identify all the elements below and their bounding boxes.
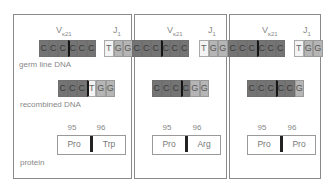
amino-acid: Pro bbox=[280, 136, 315, 152]
nucleotide: C bbox=[77, 40, 87, 57]
nucleotide: G bbox=[313, 40, 323, 57]
nucleotide: G bbox=[190, 80, 200, 97]
amino-acid: Trp bbox=[90, 136, 125, 152]
v-gene-label-2: Vκ21 bbox=[167, 25, 183, 37]
germline-j-segment-3: T G G bbox=[294, 40, 323, 57]
v-gene-label-1: Vκ21 bbox=[56, 25, 72, 37]
amino-acid: Pro bbox=[153, 136, 185, 152]
nucleotide: G bbox=[114, 40, 124, 57]
germline-j-segment-2: T G G bbox=[199, 40, 228, 57]
nucleotide: C bbox=[266, 40, 276, 57]
nucleotide: G bbox=[96, 80, 106, 97]
nucleotide: C bbox=[171, 80, 181, 97]
nucleotide: G bbox=[304, 40, 314, 57]
nucleotide: C bbox=[247, 40, 257, 57]
nucleotide: C bbox=[276, 80, 286, 97]
nucleotide: C bbox=[228, 40, 238, 57]
nucleotide: C bbox=[247, 80, 257, 97]
position-96: 96 bbox=[182, 123, 212, 132]
position-95: 95 bbox=[152, 123, 182, 132]
nucleotide: C bbox=[142, 40, 152, 57]
nucleotide: C bbox=[87, 40, 97, 57]
nucleotide: C bbox=[181, 80, 191, 97]
nucleotide: C bbox=[161, 40, 171, 57]
nucleotide: G bbox=[209, 40, 219, 57]
protein-box-3: Pro Pro bbox=[247, 135, 316, 155]
nucleotide: C bbox=[285, 80, 295, 97]
nucleotide: G bbox=[218, 40, 228, 57]
germline-v-segment-1: C C C C C C bbox=[39, 40, 96, 57]
recombined-segment-1: C C C T G G bbox=[58, 80, 115, 97]
nucleotide: G bbox=[200, 80, 210, 97]
amino-acid: Pro bbox=[248, 136, 280, 152]
nucleotide: C bbox=[276, 40, 286, 57]
nucleotide: T bbox=[104, 40, 114, 57]
germline-v-segment-3: C C C C C C bbox=[228, 40, 285, 57]
j-gene-label-1: J1 bbox=[113, 25, 121, 37]
nucleotide: C bbox=[151, 40, 161, 57]
nucleotide: T bbox=[87, 80, 97, 97]
nucleotide: C bbox=[257, 80, 267, 97]
germline-dna-label: germ line DNA bbox=[19, 60, 71, 69]
amino-acid: Arg bbox=[185, 136, 220, 152]
position-96: 96 bbox=[277, 123, 307, 132]
nucleotide: C bbox=[77, 80, 87, 97]
nucleotide: C bbox=[180, 40, 190, 57]
nucleotide: G bbox=[106, 80, 116, 97]
nucleotide: C bbox=[68, 40, 78, 57]
nucleotide: T bbox=[294, 40, 304, 57]
position-95: 95 bbox=[57, 123, 87, 132]
nucleotide: C bbox=[58, 80, 68, 97]
nucleotide: C bbox=[49, 40, 59, 57]
recombined-dna-label: recombined DNA bbox=[20, 100, 81, 109]
nucleotide: C bbox=[266, 80, 276, 97]
j-gene-label-3: J1 bbox=[303, 25, 311, 37]
position-95: 95 bbox=[247, 123, 277, 132]
position-96: 96 bbox=[86, 123, 116, 132]
nucleotide: C bbox=[170, 40, 180, 57]
recombined-segment-3: C C C C C G bbox=[247, 80, 304, 97]
nucleotide: C bbox=[238, 40, 248, 57]
germline-j-segment-1: T G G bbox=[104, 40, 133, 57]
nucleotide: G bbox=[295, 80, 305, 97]
j-gene-label-2: J1 bbox=[208, 25, 216, 37]
protein-box-2: Pro Arg bbox=[152, 135, 221, 155]
nucleotide: C bbox=[162, 80, 172, 97]
v-gene-label-3: Vκ21 bbox=[262, 25, 278, 37]
nucleotide: C bbox=[68, 80, 78, 97]
nucleotide: C bbox=[152, 80, 162, 97]
recombined-segment-2: C C C C G G bbox=[152, 80, 209, 97]
protein-label: protein bbox=[20, 158, 44, 167]
germline-v-segment-2: C C C C C C bbox=[132, 40, 189, 57]
nucleotide: C bbox=[132, 40, 142, 57]
nucleotide: C bbox=[39, 40, 49, 57]
nucleotide: T bbox=[199, 40, 209, 57]
nucleotide: C bbox=[257, 40, 267, 57]
nucleotide: C bbox=[58, 40, 68, 57]
amino-acid: Pro bbox=[58, 136, 90, 152]
protein-box-1: Pro Trp bbox=[57, 135, 126, 155]
